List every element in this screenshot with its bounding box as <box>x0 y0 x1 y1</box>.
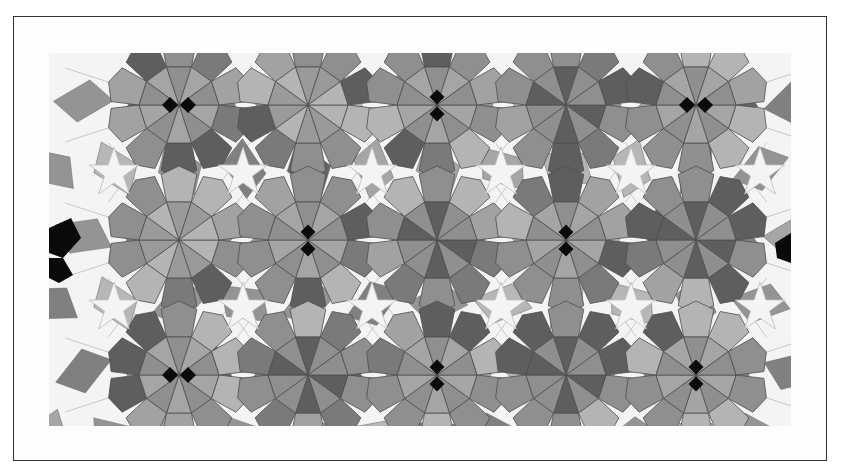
mosaic-svg <box>49 53 791 426</box>
tile-mosaic-image <box>49 53 791 426</box>
